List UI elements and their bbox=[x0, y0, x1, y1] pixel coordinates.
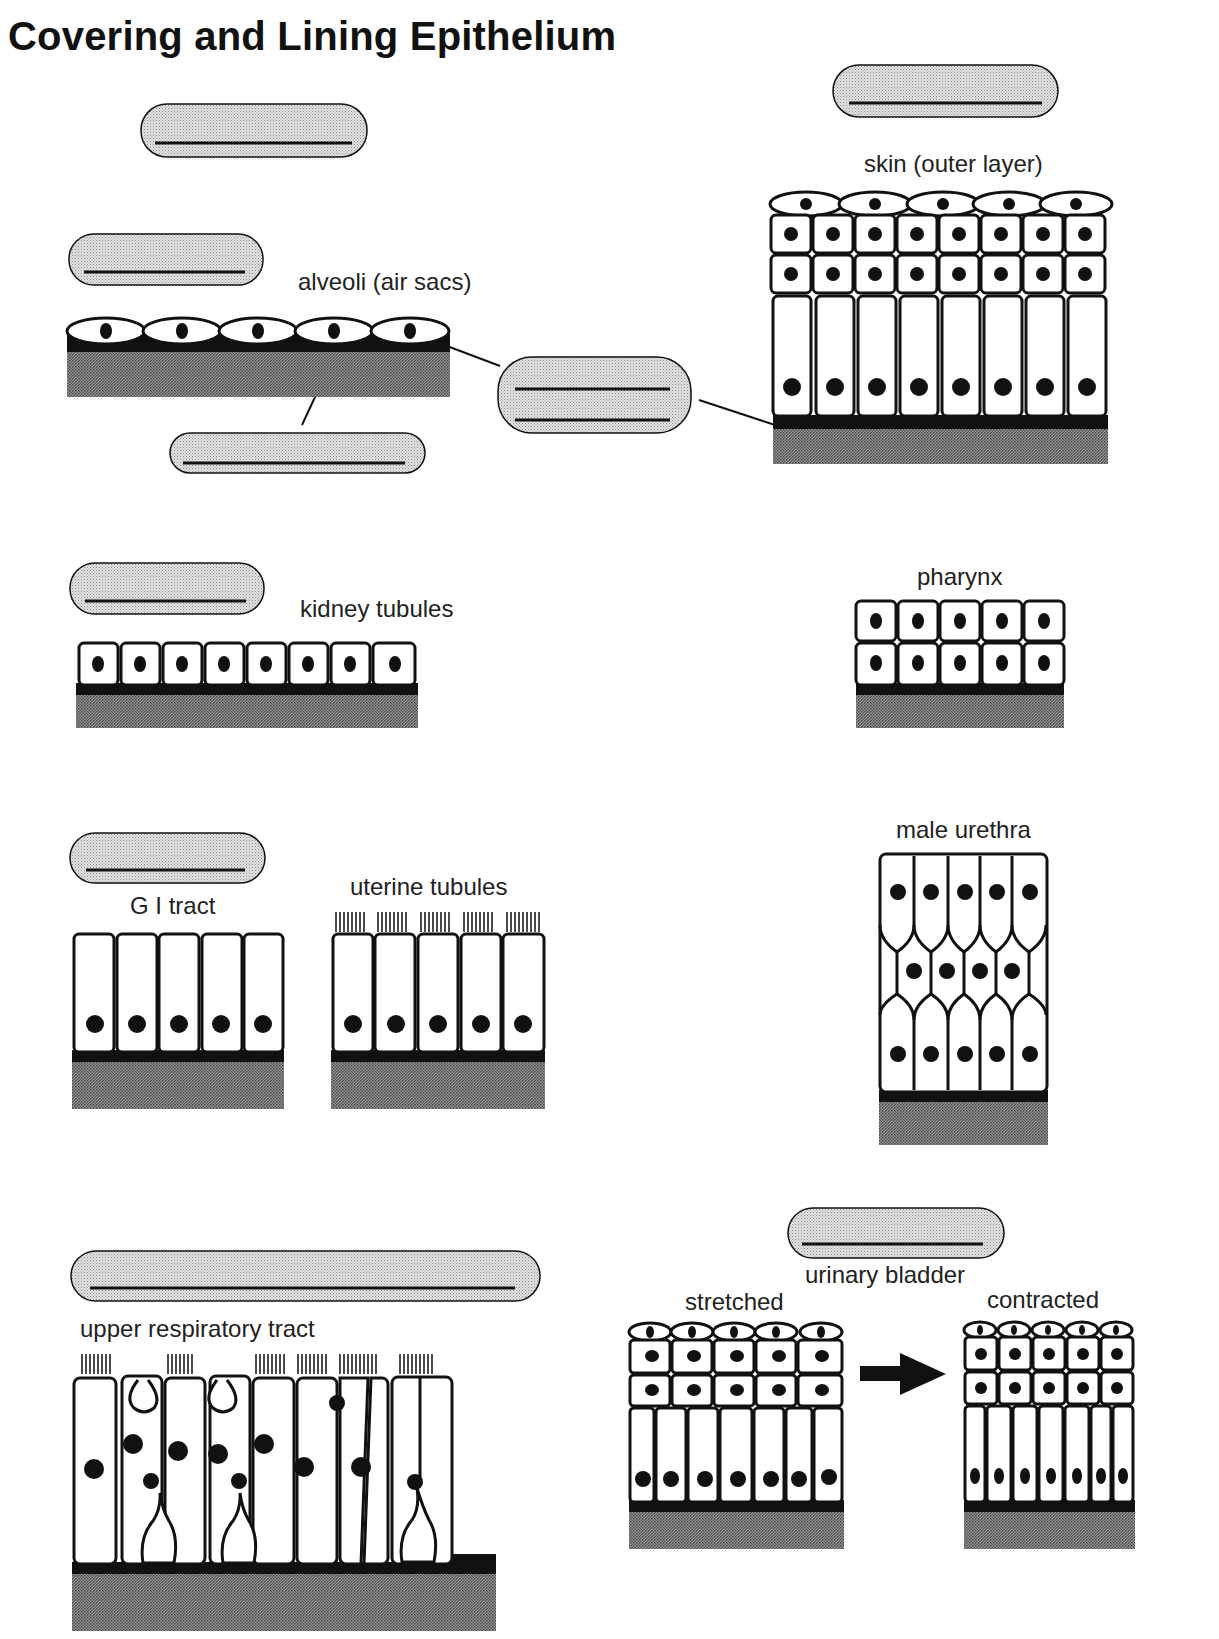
blank-label-box-bladder bbox=[788, 1208, 1004, 1258]
blank-label-box-skin bbox=[833, 65, 1058, 117]
blank-label-box-kidney bbox=[70, 563, 264, 614]
tissue-bladder-contracted bbox=[964, 1322, 1135, 1549]
blank-label-box-gi bbox=[70, 833, 265, 883]
blank-label-box-top-left bbox=[141, 104, 367, 157]
blank-label-box-center bbox=[498, 357, 691, 433]
tissue-skin bbox=[770, 192, 1112, 464]
tissue-kidney-tubules bbox=[76, 643, 418, 728]
tissue-uterine-tubules bbox=[331, 912, 545, 1109]
blank-label-box-alveoli bbox=[69, 234, 263, 285]
tissue-pharynx bbox=[856, 601, 1064, 728]
blank-label-box-upper-resp bbox=[71, 1251, 540, 1301]
arrow-right-icon bbox=[860, 1353, 946, 1395]
tissue-male-urethra bbox=[879, 854, 1048, 1145]
tissue-gi-tract bbox=[72, 934, 284, 1109]
tissue-alveoli bbox=[67, 318, 450, 397]
epithelium-diagram bbox=[0, 0, 1219, 1639]
tissue-bladder-stretched bbox=[629, 1323, 844, 1549]
tissue-upper-respiratory-tract bbox=[72, 1354, 496, 1631]
blank-label-box-basement bbox=[170, 433, 425, 473]
